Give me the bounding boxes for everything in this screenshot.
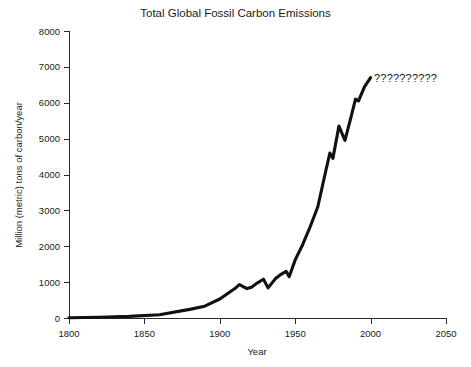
y-axis-ticks: 010002000300040005000600070008000 [39, 26, 69, 324]
emissions-data-line [69, 78, 371, 318]
y-axis-label: Million (metric) tons of carbon/year [13, 102, 24, 248]
y-tick-label: 7000 [39, 61, 60, 72]
x-tick-label: 1850 [134, 328, 155, 339]
y-tick-label: 0 [55, 313, 60, 324]
x-tick-label: 2000 [360, 328, 381, 339]
y-tick-label: 6000 [39, 97, 60, 108]
y-tick-label: 3000 [39, 205, 60, 216]
y-tick-label: 8000 [39, 26, 60, 37]
fossil-carbon-emissions-chart: Total Global Fossil Carbon Emissions Mil… [0, 0, 471, 367]
x-axis-label: Year [247, 346, 266, 357]
x-tick-label: 1950 [285, 328, 306, 339]
x-tick-label: 1900 [209, 328, 230, 339]
x-tick-label: 2050 [435, 328, 456, 339]
y-tick-label: 1000 [39, 277, 60, 288]
x-tick-label: 1800 [58, 328, 79, 339]
x-axis-ticks: 180018501900195020002050 [58, 318, 456, 339]
future-unknown-annotation: ?????????? [374, 72, 437, 84]
chart-title: Total Global Fossil Carbon Emissions [140, 7, 331, 19]
y-tick-label: 2000 [39, 241, 60, 252]
y-tick-label: 4000 [39, 169, 60, 180]
chart-page: Total Global Fossil Carbon Emissions Mil… [0, 0, 471, 367]
y-tick-label: 5000 [39, 133, 60, 144]
